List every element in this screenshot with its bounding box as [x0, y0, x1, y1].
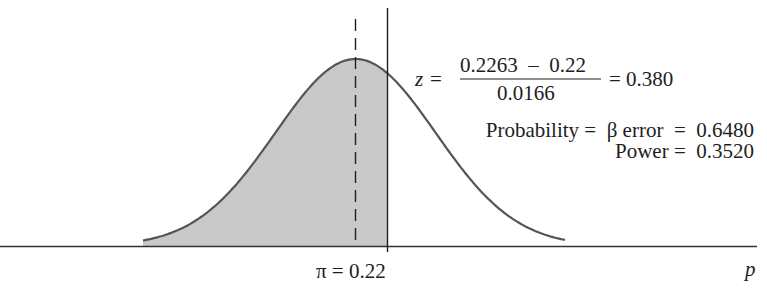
power-diagram: π = 0.22 p z = 0.2263 – 0.22 0.0166 = 0.… — [0, 0, 767, 288]
equation-result: = 0.380 — [609, 67, 673, 91]
mean-label: π = 0.22 — [316, 259, 386, 283]
z-label: z — [414, 67, 423, 91]
x-axis-label: p — [743, 257, 756, 281]
equation-denominator: 0.0166 — [497, 81, 555, 105]
beta-error-shaded-region — [143, 59, 388, 246]
power-text: Power = 0.3520 — [615, 139, 754, 163]
equation-numerator: 0.2263 – 0.22 — [460, 53, 586, 77]
equals-sign: = — [430, 67, 442, 91]
